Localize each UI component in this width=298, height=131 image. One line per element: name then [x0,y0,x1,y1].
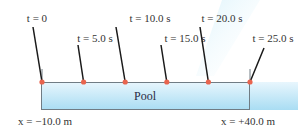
marker-line [250,48,264,82]
position-dot [206,79,211,84]
pool-rect [41,82,298,110]
pool-right-label: x = +40.0 m [221,115,275,127]
position-dot [247,79,252,84]
time-label: t = 10.0 s [129,12,170,24]
time-label: t = 5.0 s [77,32,113,44]
position-dot [39,79,44,84]
position-dot [164,79,169,84]
time-label: t = 25.0 s [252,32,293,44]
position-dot [81,79,86,84]
time-label: t = 15.0 s [164,32,205,44]
marker-line [33,27,42,82]
time-label: t = 0 [27,12,48,24]
swimmer-diagram: Pool x = −10.0 m x = +40.0 m t = 0t = 5.… [0,0,298,131]
pool-label: Pool [134,89,157,103]
time-markers: t = 0t = 5.0 st = 10.0 st = 15.0 st = 20… [27,12,294,85]
marker-line [78,45,84,82]
time-label: t = 20.0 s [201,12,242,24]
pool-left-label: x = −10.0 m [18,115,72,127]
marker-line [161,45,167,82]
position-dot [123,79,128,84]
marker-line [116,27,125,82]
